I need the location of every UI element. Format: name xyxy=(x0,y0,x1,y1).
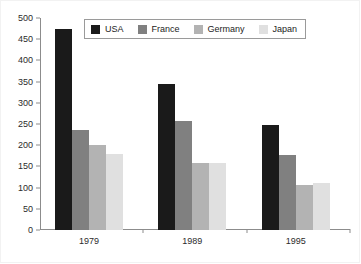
y-axis-tick-label: 300 xyxy=(0,98,33,108)
y-axis-tick-label: 500 xyxy=(0,13,33,23)
y-axis-tick-mark xyxy=(36,230,40,231)
y-axis-tick-label: 250 xyxy=(0,119,33,129)
y-axis-tick-mark xyxy=(36,18,40,19)
y-axis-tick-label: 0 xyxy=(0,225,33,235)
y-axis-tick-label: 400 xyxy=(0,55,33,65)
bar-chart: 050100150200250300350400450500 197919891… xyxy=(0,0,361,264)
x-axis-tick-label: 1995 xyxy=(286,236,306,246)
bar-usa-1995 xyxy=(262,125,279,230)
x-axis-tick-mark xyxy=(246,229,247,233)
y-axis-tick-label: 450 xyxy=(0,34,33,44)
y-axis-tick-label: 350 xyxy=(0,77,33,87)
y-axis-tick-mark xyxy=(36,124,40,125)
y-axis-tick-label: 100 xyxy=(0,183,33,193)
legend-swatch-icon xyxy=(194,25,203,34)
legend-swatch-icon xyxy=(259,25,268,34)
legend-label: Germany xyxy=(208,25,245,34)
x-axis-tick-mark xyxy=(143,229,144,233)
y-axis-line xyxy=(40,18,41,230)
x-axis-tick-mark xyxy=(350,229,351,233)
legend-swatch-icon xyxy=(138,25,147,34)
bar-japan-1995 xyxy=(313,183,330,230)
y-axis-tick-mark xyxy=(36,166,40,167)
bar-france-1979 xyxy=(72,130,89,230)
y-axis-tick-label: 50 xyxy=(0,204,33,214)
bar-germany-1979 xyxy=(89,145,106,230)
bar-japan-1989 xyxy=(209,163,226,230)
legend-item-france: France xyxy=(138,25,180,34)
x-axis-tick-label: 1979 xyxy=(79,236,99,246)
legend-item-japan: Japan xyxy=(259,25,298,34)
y-axis-tick-mark xyxy=(36,208,40,209)
x-axis-tick-label: 1989 xyxy=(182,236,202,246)
bar-france-1989 xyxy=(175,121,192,230)
bar-usa-1989 xyxy=(158,84,175,230)
legend-label: Japan xyxy=(273,25,298,34)
legend-item-usa: USA xyxy=(91,25,124,34)
y-axis-tick-mark xyxy=(36,81,40,82)
bar-france-1995 xyxy=(279,155,296,230)
bar-usa-1979 xyxy=(55,29,72,230)
y-axis-tick-mark xyxy=(36,60,40,61)
bar-japan-1979 xyxy=(106,154,123,230)
y-axis-tick-mark xyxy=(36,145,40,146)
chart-legend: USAFranceGermanyJapan xyxy=(84,19,306,39)
y-axis-tick-mark xyxy=(36,39,40,40)
y-axis-tick-label: 200 xyxy=(0,140,33,150)
legend-swatch-icon xyxy=(91,25,100,34)
y-axis-tick-mark xyxy=(36,187,40,188)
y-axis-tick-mark xyxy=(36,102,40,103)
legend-item-germany: Germany xyxy=(194,25,245,34)
legend-label: USA xyxy=(105,25,124,34)
bar-germany-1989 xyxy=(192,163,209,230)
y-axis-tick-label: 150 xyxy=(0,161,33,171)
legend-label: France xyxy=(152,25,180,34)
bar-germany-1995 xyxy=(296,185,313,230)
